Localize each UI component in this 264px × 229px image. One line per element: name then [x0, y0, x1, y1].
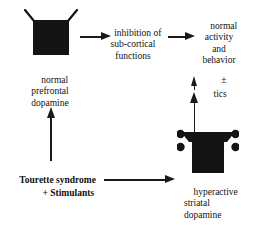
- pathway-diagram: normal prefrontal dopamine inhibition of…: [0, 0, 264, 229]
- dopamine-dot: [177, 130, 185, 138]
- striatal-dopamine-label: hyperactive striatal dopamine: [184, 175, 262, 229]
- dopamine-dot: [231, 130, 239, 138]
- cause-label-line2: + Stimulants: [33, 176, 123, 211]
- striatal-neuron-icon: [177, 128, 239, 174]
- dopamine-dot: [231, 143, 239, 151]
- outcome-tics-label: tics: [204, 77, 244, 112]
- prefrontal-neuron-icon: [22, 9, 80, 59]
- inhibition-label: inhibition of sub-cortical functions: [100, 16, 166, 74]
- dopamine-dot: [177, 143, 185, 151]
